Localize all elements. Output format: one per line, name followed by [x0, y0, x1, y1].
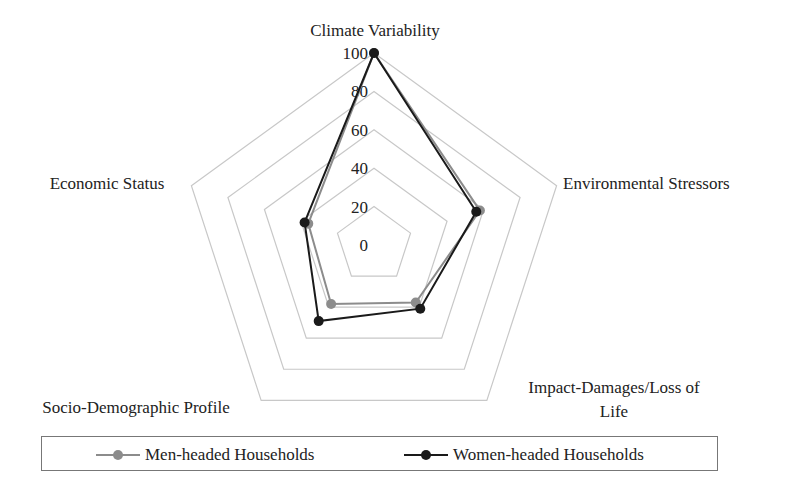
tick-label-40: 40	[351, 159, 368, 178]
radar-grid	[191, 53, 556, 400]
data-point-marker	[326, 299, 336, 309]
axis-label-3: Socio-Demographic Profile	[42, 398, 229, 417]
grid-ring-20	[337, 207, 410, 276]
tick-label-20: 20	[351, 198, 368, 217]
legend-dot-men	[113, 450, 123, 460]
grid-ring-100	[191, 53, 556, 400]
legend-item-women: Women-headed Households	[404, 437, 644, 472]
tick-label-100: 100	[343, 44, 369, 63]
legend-dot-women	[421, 450, 431, 460]
data-point-marker	[415, 304, 425, 314]
legend: Men-headed Households Women-headed House…	[41, 436, 718, 471]
radar-chart: 020406080100 Climate VariabilityEnvironm…	[0, 0, 790, 499]
axis-label-4: Economic Status	[50, 174, 165, 193]
grid-ring-40	[301, 168, 447, 307]
legend-item-men: Men-headed Households	[96, 437, 315, 472]
axis-labels: Climate VariabilityEnvironmental Stresso…	[42, 21, 729, 421]
legend-label-women: Women-headed Households	[453, 445, 644, 465]
tick-label-0: 0	[360, 236, 369, 255]
legend-label-men: Men-headed Households	[145, 445, 315, 465]
legend-marker-women-icon	[404, 449, 448, 461]
data-point-marker	[314, 316, 324, 326]
data-point-marker	[300, 217, 310, 227]
data-point-marker	[471, 207, 481, 217]
axis-label-0: Climate Variability	[310, 21, 440, 40]
radar-plot-area: 020406080100 Climate VariabilityEnvironm…	[0, 0, 790, 499]
axis-label-1: Environmental Stressors	[563, 174, 730, 193]
tick-label-60: 60	[351, 121, 368, 140]
axis-label-2: Impact-Damages/Loss ofLife	[528, 378, 700, 421]
data-series	[300, 48, 485, 326]
series-men	[303, 48, 485, 309]
legend-marker-men-icon	[96, 449, 140, 461]
series-women	[300, 48, 482, 326]
series-line	[305, 53, 477, 321]
data-point-marker	[369, 48, 379, 58]
